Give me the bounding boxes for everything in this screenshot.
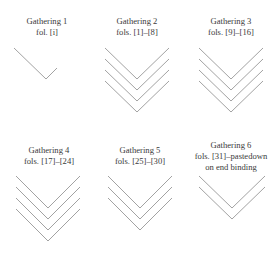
- bifolium-3: [16, 198, 80, 230]
- gathering-4: Gathering 4 fols. [17]–[24]: [2, 130, 96, 266]
- gathering-2: Gathering 2 fols. [1]–[8]: [90, 0, 184, 130]
- bifolium-4: [16, 209, 80, 241]
- gathering-3: Gathering 3 fols. [9]–[16]: [184, 0, 278, 130]
- bifolium-4: [105, 81, 169, 112]
- collation-diagram: Gathering 1 fol. [i] Gathering 2 fols. […: [0, 0, 278, 266]
- gathering-1: Gathering 1 fol. [i]: [0, 0, 94, 130]
- singleton-leaf: [14, 48, 57, 79]
- gathering-5-folds: [93, 130, 187, 266]
- bifolium-1: [108, 176, 172, 208]
- gathering-6-folds: [184, 130, 278, 266]
- gathering-4-folds: [2, 130, 96, 266]
- bifolium-3: [105, 70, 169, 101]
- bifolium-2: [199, 59, 263, 90]
- gathering-6: Gathering 6 fols. [31]–pastedown on end …: [184, 130, 278, 266]
- gathering-1-folds: [0, 0, 94, 130]
- bifolium-3: [108, 198, 172, 230]
- bifolium-2: [105, 59, 169, 90]
- bifolium-1: [199, 48, 263, 79]
- bifolium-2: [16, 187, 80, 219]
- bifolium-2: [108, 187, 172, 219]
- bifolium-1: [199, 176, 265, 208]
- bifolium-1: [16, 176, 80, 208]
- gathering-5: Gathering 5 fols. [25]–[30]: [93, 130, 187, 266]
- bifolium-4: [199, 81, 263, 112]
- bifolium-2: [199, 187, 265, 219]
- bifolium-1: [105, 48, 169, 79]
- gathering-3-folds: [184, 0, 278, 130]
- bifolium-3: [199, 70, 263, 101]
- gathering-2-folds: [90, 0, 184, 130]
